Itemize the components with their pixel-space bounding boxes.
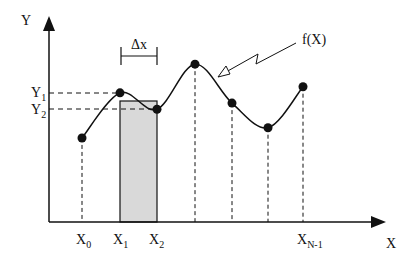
y1-tick-label: Y1 xyxy=(31,85,46,103)
sample-point-x4 xyxy=(228,99,237,108)
sample-point-x2 xyxy=(153,105,162,114)
xn1-tick-label: XN-1 xyxy=(297,232,323,250)
sample-point-x0 xyxy=(78,133,87,142)
sample-points xyxy=(78,60,308,143)
shaded-rectangle xyxy=(120,101,157,222)
y-axis-arrow-icon xyxy=(43,16,55,31)
integration-diagram: Δx f(X) Y X Y1 Y2 X0 X1 X2 XN-1 xyxy=(0,0,417,264)
sample-point-x6 xyxy=(299,82,308,91)
curve-label: f(X) xyxy=(302,32,326,48)
delta-x-label: Δx xyxy=(131,37,147,52)
x1-tick-label: X1 xyxy=(113,232,128,250)
x2-tick-label: X2 xyxy=(149,232,164,250)
sample-point-x3 xyxy=(191,60,200,69)
sample-point-x1 xyxy=(116,88,125,97)
sample-point-x5 xyxy=(264,123,273,132)
y-axis-label: Y xyxy=(21,13,31,28)
dashed-verticals xyxy=(82,64,303,222)
x0-tick-label: X0 xyxy=(76,232,91,250)
curve-pointer-arrow-icon xyxy=(226,43,296,72)
x-axis-arrow-icon xyxy=(371,216,386,228)
x-axis-label: X xyxy=(386,236,396,251)
y2-tick-label: Y2 xyxy=(31,102,46,120)
curve-pointer-arrowhead-icon xyxy=(218,66,230,77)
